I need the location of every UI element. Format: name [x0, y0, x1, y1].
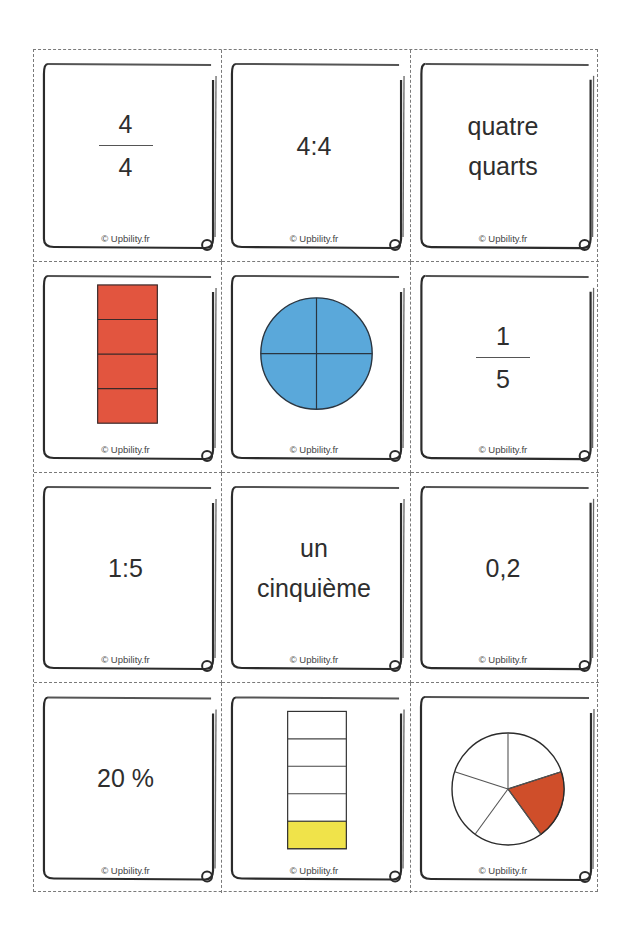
pie-diagram — [452, 733, 564, 845]
fraction-bar — [99, 145, 153, 146]
copyright-label: © Upbility.fr — [222, 444, 406, 455]
copyright-label: © Upbility.fr — [34, 444, 217, 455]
red-bar-diagram — [98, 285, 158, 423]
card-un-cinquieme[interactable]: un cinquième © Upbility.fr — [222, 473, 411, 683]
card-text-line-1: quatre — [468, 106, 539, 146]
copyright-label: © Upbility.fr — [222, 654, 406, 665]
card-0-2[interactable]: 0,2 © Upbility.fr — [411, 473, 599, 683]
card-text-line-2: quarts — [468, 146, 537, 186]
fraction-bar — [476, 357, 530, 358]
fraction-numerator: 4 — [119, 109, 133, 139]
card-text: 0,2 — [486, 548, 521, 588]
copyright-label: © Upbility.fr — [411, 865, 595, 876]
copyright-label: © Upbility.fr — [411, 233, 595, 244]
card-frame — [411, 683, 599, 893]
card-4-ratio-4[interactable]: 4:4 © Upbility.fr — [222, 50, 411, 262]
card-grid: 4 4 © Upbility.fr 4:4 © Upbility.fr — [34, 50, 597, 891]
card-pie-1-of-5[interactable]: © Upbility.fr — [411, 683, 599, 893]
card-20-percent[interactable]: 20 % © Upbility.fr — [34, 683, 222, 893]
card-red-bar-4-of-4[interactable]: © Upbility.fr — [34, 262, 222, 473]
copyright-label: © Upbility.fr — [34, 654, 217, 665]
card-4-over-4[interactable]: 4 4 © Upbility.fr — [34, 50, 222, 262]
copyright-label: © Upbility.fr — [222, 233, 406, 244]
fraction-denominator: 4 — [119, 152, 133, 182]
card-blue-circle-4-of-4[interactable]: © Upbility.fr — [222, 262, 411, 473]
card-frame — [222, 262, 410, 472]
fraction: 4 4 — [99, 109, 153, 182]
card-text: 20 % — [97, 758, 154, 798]
card-text-line-2: cinquième — [257, 568, 371, 608]
card-text: 1:5 — [108, 548, 143, 588]
copyright-label: © Upbility.fr — [411, 444, 595, 455]
card-text-line-1: un — [300, 528, 328, 568]
card-frame — [222, 683, 410, 893]
fraction: 1 5 — [476, 321, 530, 394]
card-quatre-quarts[interactable]: quatre quarts © Upbility.fr — [411, 50, 599, 262]
card-1-ratio-5[interactable]: 1:5 © Upbility.fr — [34, 473, 222, 683]
copyright-label: © Upbility.fr — [34, 865, 217, 876]
card-frame — [34, 262, 221, 472]
copyright-label: © Upbility.fr — [222, 865, 406, 876]
copyright-label: © Upbility.fr — [34, 233, 217, 244]
card-yellow-bar-1-of-5[interactable]: © Upbility.fr — [222, 683, 411, 893]
fraction-numerator: 1 — [496, 321, 510, 351]
copyright-label: © Upbility.fr — [411, 654, 595, 665]
card-text: 4:4 — [297, 126, 332, 166]
card-1-over-5[interactable]: 1 5 © Upbility.fr — [411, 262, 599, 473]
fraction-denominator: 5 — [496, 364, 510, 394]
yellow-bar-diagram — [288, 711, 347, 848]
blue-circle-diagram — [261, 298, 372, 409]
card-sheet: 4 4 © Upbility.fr 4:4 © Upbility.fr — [33, 49, 598, 892]
